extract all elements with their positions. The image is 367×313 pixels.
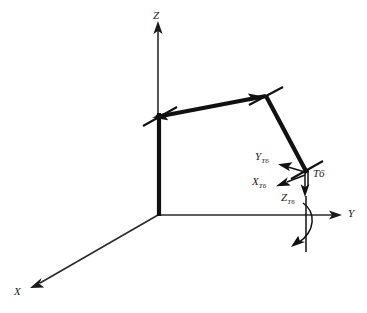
x-axis	[30, 215, 158, 288]
z-axis-label: Z	[153, 10, 159, 21]
y-t6-label: YT6	[255, 151, 269, 165]
x-axis-label: X	[14, 286, 21, 297]
x-t6-label: XT6	[252, 176, 267, 190]
x-t6-label-subscript: T6	[259, 182, 267, 190]
y-t6-arrowhead	[278, 162, 293, 171]
x-t6-label-base: X	[252, 175, 259, 187]
x-axis-arrowhead	[30, 278, 44, 288]
upper-arm-link	[156, 96, 266, 117]
rotation-arc	[298, 203, 312, 243]
y-axis	[158, 210, 342, 219]
rotation-arc-arrowhead	[291, 236, 305, 247]
robot-arm-diagram: Z Y X YT6 XT6 ZT6 T6	[0, 0, 367, 313]
diagram-canvas	[0, 0, 367, 313]
y-t6-label-subscript: T6	[261, 157, 269, 165]
tool-frame-label: T6	[313, 168, 325, 179]
z-t6-label-subscript: T6	[287, 198, 295, 206]
x-axis-line	[40, 215, 158, 283]
z-t6-label: ZT6	[281, 192, 295, 206]
y-axis-label: Y	[348, 208, 354, 219]
forearm-link	[266, 96, 307, 173]
